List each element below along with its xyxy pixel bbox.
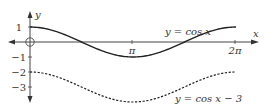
x-axis-label: x (253, 28, 259, 39)
x-tick-label-2pi: 2π (228, 45, 242, 56)
x-tick-label-pi: π (128, 45, 136, 56)
curve1-label: y = cos x (164, 26, 211, 37)
y-tick-label-m2: −2 (11, 67, 26, 78)
y-tick-label-m1: −1 (11, 52, 26, 63)
curve2-label: y = cos x − 3 (174, 93, 242, 104)
y-tick-label-m3: −3 (11, 82, 26, 93)
y-tick-label-1: 1 (16, 22, 22, 33)
x-axis-left-arrow-icon (8, 40, 15, 45)
y-axis-up-arrow-icon (28, 11, 33, 18)
cosine-graph: y x 1 −1 −2 −3 π 2π y = cos x y = cos x … (0, 0, 264, 109)
x-axis-right-arrow-icon (251, 40, 259, 45)
y-axis-down-arrow-icon (28, 96, 33, 103)
y-axis-label: y (34, 9, 41, 20)
